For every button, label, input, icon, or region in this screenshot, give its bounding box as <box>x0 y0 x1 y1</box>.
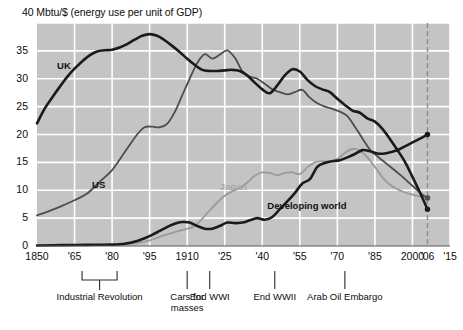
y-axis-tick-label: 35 <box>2 44 28 56</box>
series-label-developing-world: Developing world <box>267 200 346 211</box>
x-axis-tick-label: '25 <box>208 250 242 262</box>
x-axis-tick-label: '85 <box>358 250 392 262</box>
chart-canvas <box>0 0 463 330</box>
x-axis-tick-label: '15 <box>433 250 463 262</box>
x-axis-tick-label: '65 <box>58 250 92 262</box>
y-axis-tick-label: 25 <box>2 100 28 112</box>
series-endpoint-marker <box>425 132 430 137</box>
x-axis-tick-label: 1850 <box>20 250 54 262</box>
plot-area <box>0 0 463 330</box>
x-axis-tick-label: '70 <box>320 250 354 262</box>
series-label-uk: UK <box>57 60 71 71</box>
series-endpoint-marker <box>425 207 430 212</box>
series-endpoint-marker <box>425 195 430 200</box>
x-axis-tick-label: '55 <box>283 250 317 262</box>
y-axis-tick-label: 30 <box>2 72 28 84</box>
x-axis-tick-label: '40 <box>245 250 279 262</box>
y-axis-tick-label: 20 <box>2 128 28 140</box>
y-axis-tick-label: 10 <box>2 183 28 195</box>
x-axis-tick-label: '80 <box>95 250 129 262</box>
y-axis-tick-label: 5 <box>2 211 28 223</box>
series-label-us: US <box>92 179 105 190</box>
y-axis-tick-label: 15 <box>2 155 28 167</box>
x-axis-tick-label: '95 <box>133 250 167 262</box>
annotation-bracket <box>82 271 117 280</box>
annotation-marker <box>82 271 117 290</box>
chart-root: 40 Mbtu/$ (energy use per unit of GDP) 0… <box>0 0 463 330</box>
series-label-japan: Japan <box>220 181 247 192</box>
x-axis-tick-label: 1910 <box>170 250 204 262</box>
annotation-label: Arab Oil Embargo <box>285 291 405 302</box>
